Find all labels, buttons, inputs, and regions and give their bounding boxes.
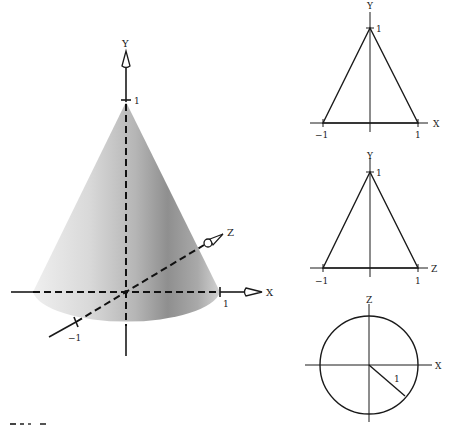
side-right-label: 1 [415,276,421,286]
caption-fragment [10,421,190,426]
side-horizontal-label: Z [431,264,437,274]
front-view-xy: Y X 1 −1 1 [310,1,440,140]
side-vertical-label: Y [366,151,374,161]
top-vertical-label: Z [366,295,372,305]
main-3d-view: X 1 Y 1 Z −1 [11,38,274,356]
side-view-zy: Y Z 1 −1 1 [310,151,437,286]
front-vertical-label: Y [366,1,374,11]
x-axis-label: X [266,287,274,298]
z-tick-label: −1 [68,333,81,343]
side-apex-label: 1 [376,168,382,178]
x-tick-label: 1 [223,299,229,309]
cone-figure: X 1 Y 1 Z −1 Y X 1 −1 1 [0,0,455,426]
front-left-label: −1 [315,130,328,140]
origin-point [124,290,128,294]
x-arrow-icon [245,288,263,296]
front-apex-label: 1 [376,24,382,34]
front-right-label: 1 [415,130,421,140]
top-radius-label: 1 [394,374,400,384]
y-arrow-icon [122,51,130,68]
z-arrow-icon [210,234,223,245]
cone-surface [33,102,220,322]
z-axis-label: Z [227,227,234,238]
y-axis-label: Y [121,38,129,49]
side-left-label: −1 [315,276,328,286]
y-tick-label: 1 [134,96,140,106]
top-view-xz: Z X 1 [305,295,442,422]
front-horizontal-label: X [433,119,440,129]
top-horizontal-label: X [435,361,442,371]
